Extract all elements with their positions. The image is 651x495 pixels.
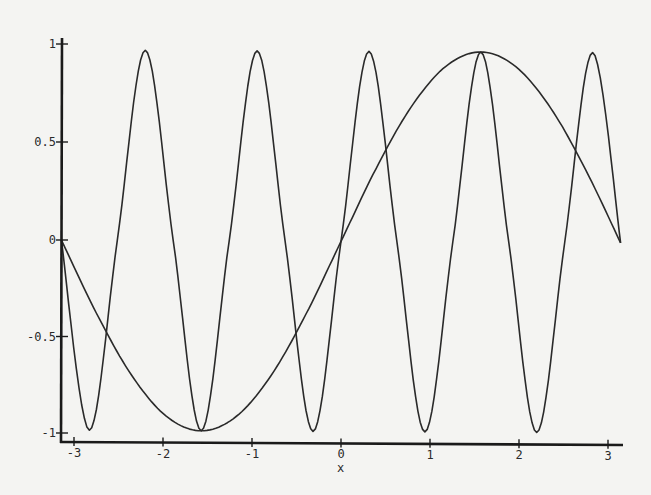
y-tick-label: -0.5	[27, 330, 56, 344]
x-tick-label: 3	[604, 449, 611, 463]
y-tick-label: 0	[49, 233, 56, 247]
x-tick-label: -1	[245, 447, 259, 461]
x-axis-label: x	[337, 461, 344, 475]
plot-curves	[61, 50, 620, 432]
x-axis-ticks: -3-2-10123	[67, 437, 612, 463]
chart: -3-2-10123 -1-0.500.51 x	[0, 0, 651, 495]
x-tick-label: 2	[515, 448, 522, 462]
x-tick-label: -2	[156, 447, 170, 461]
x-tick-label: -3	[67, 446, 81, 460]
y-tick-label: 1	[49, 37, 56, 51]
x-tick-label: 0	[337, 447, 344, 461]
x-tick-label: 1	[426, 448, 433, 462]
y-tick-label: -1	[42, 426, 56, 440]
y-tick-label: 0.5	[34, 135, 56, 149]
series-line-sin-5x	[61, 50, 620, 432]
